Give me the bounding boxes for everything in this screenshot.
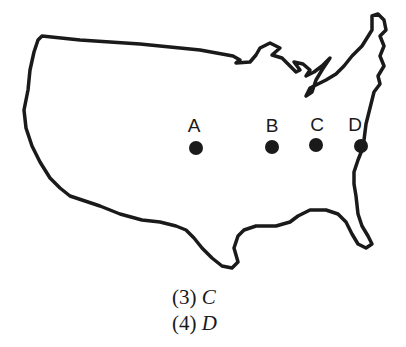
- map-points: [189, 138, 368, 155]
- point-a-label: A: [188, 116, 201, 135]
- point-d-label: D: [348, 115, 362, 134]
- point-d-marker: [354, 139, 368, 153]
- choice-3: (3) C: [172, 284, 217, 310]
- point-a-marker: [189, 141, 203, 155]
- choice-number: (3): [172, 285, 197, 309]
- point-b-label: B: [266, 116, 279, 135]
- us-outline-map: [0, 0, 406, 280]
- point-c-label: C: [310, 115, 324, 134]
- us-outline: [24, 14, 386, 268]
- answer-choices: (3) C (4) D: [172, 284, 217, 336]
- point-b-marker: [265, 140, 279, 154]
- point-c-marker: [309, 138, 323, 152]
- choice-4: (4) D: [172, 310, 217, 336]
- choice-answer: C: [202, 285, 216, 309]
- choice-number: (4): [172, 311, 197, 335]
- choice-answer: D: [202, 311, 217, 335]
